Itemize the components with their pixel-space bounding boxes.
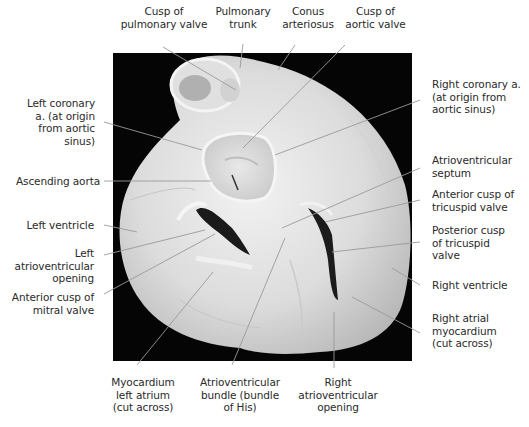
label-av-septum: Atrioventricular septum — [432, 154, 529, 179]
label-cusp-pulmonary-valve: Cusp of pulmonary valve — [104, 5, 224, 30]
label-right-ventricle: Right ventricle — [432, 279, 529, 292]
anatomy-figure: Cusp of pulmonary valve Pulmonary trunk … — [0, 0, 529, 427]
label-right-av-opening: Right atrioventricular opening — [288, 376, 388, 414]
label-posterior-cusp-tricuspid: Posterior cusp of tricuspid valve — [432, 224, 529, 262]
label-left-ventricle: Left ventricle — [0, 219, 94, 232]
label-left-av-opening: Left atrioventricular opening — [0, 247, 94, 285]
label-cusp-aortic-valve: Cusp of aortic valve — [338, 5, 413, 30]
label-left-coronary-artery: Left coronary a. (at origin from aortic … — [0, 97, 95, 147]
label-ascending-aorta: Ascending aorta — [0, 175, 100, 188]
label-anterior-cusp-tricuspid: Anterior cusp of tricuspid valve — [432, 188, 529, 213]
label-right-coronary-artery: Right coronary a. (at origin from aortic… — [432, 78, 529, 116]
label-myocardium-left-atrium: Myocardium left atrium (cut across) — [98, 376, 188, 414]
heart-photograph — [0, 0, 529, 427]
label-pulmonary-trunk: Pulmonary trunk — [212, 5, 274, 30]
label-anterior-cusp-mitral: Anterior cusp of mitral valve — [0, 291, 94, 316]
label-av-bundle-his: Atrioventricular bundle (bundle of His) — [190, 376, 290, 414]
label-right-atrial-myocardium: Right atrial myocardium (cut across) — [432, 312, 529, 350]
label-conus-arteriosus: Conus arteriosus — [277, 5, 339, 30]
